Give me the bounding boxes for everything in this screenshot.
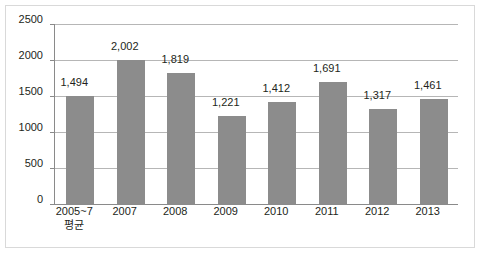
x-axis-tick-label-main: 2008 <box>163 205 187 217</box>
y-axis-tick-label: 1000 <box>0 122 43 133</box>
x-axis-tick-label: 2013 <box>392 205 464 219</box>
y-axis-tick-label: 2500 <box>0 14 43 25</box>
bar[interactable] <box>369 109 397 204</box>
bar-value-label: 1,461 <box>398 80 458 91</box>
y-axis-tick-label: 0 <box>0 194 43 205</box>
x-axis-tick-label-main: 2011 <box>315 205 339 217</box>
x-axis-tick-label-main: 2010 <box>264 205 288 217</box>
bar-value-label: 1,221 <box>196 97 256 108</box>
chart-screenshot: 05001000150020002500 1,4942,0021,8191,22… <box>0 0 481 254</box>
x-axis-tick-sublabel: 평균 <box>38 219 110 233</box>
bar[interactable] <box>268 102 296 204</box>
chart-frame: 05001000150020002500 1,4942,0021,8191,22… <box>5 5 475 248</box>
bar[interactable] <box>167 73 195 204</box>
x-axis-tick-label-main: 2005~7 <box>56 205 93 217</box>
x-axis-tick-label-main: 2012 <box>365 205 389 217</box>
bar[interactable] <box>420 99 448 204</box>
bar[interactable] <box>117 60 145 204</box>
bar-value-label: 1,412 <box>246 83 306 94</box>
bar[interactable] <box>319 82 347 204</box>
bar-value-label: 1,691 <box>297 63 357 74</box>
bar-value-label: 1,317 <box>347 90 407 101</box>
bar[interactable] <box>218 116 246 204</box>
y-axis-tick-label: 2000 <box>0 50 43 61</box>
bar-value-label: 2,002 <box>95 41 155 52</box>
bar-value-label: 1,819 <box>145 54 205 65</box>
y-axis-tick-label: 500 <box>0 158 43 169</box>
x-axis-tick-label-main: 2007 <box>113 205 137 217</box>
bar-value-label: 1,494 <box>44 77 104 88</box>
x-axis-tick-label-main: 2009 <box>214 205 238 217</box>
x-axis-tick-label-main: 2013 <box>416 205 440 217</box>
y-axis-tick-label: 1500 <box>0 86 43 97</box>
bar[interactable] <box>66 96 94 204</box>
